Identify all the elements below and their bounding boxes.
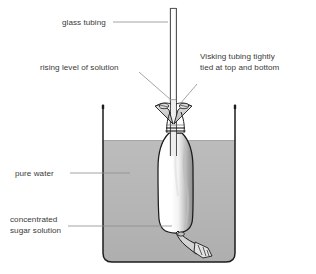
label-visking-tubing-line1: Visking tubing tightly: [200, 52, 276, 61]
label-sugar-solution-line2: sugar solution: [10, 226, 61, 235]
label-visking-tubing: Visking tubing tightly tied at top and b…: [200, 52, 280, 72]
label-pure-water: pure water: [15, 169, 54, 178]
label-glass-tubing: glass tubing: [62, 18, 106, 27]
label-sugar-solution: concentrated sugar solution: [10, 215, 61, 235]
label-sugar-solution-line1: concentrated: [10, 215, 57, 224]
osmosis-diagram-svg: glass tubing rising level of solution Vi…: [0, 0, 316, 274]
leader-rising-level: [139, 72, 171, 100]
label-rising-level: rising level of solution: [40, 63, 119, 72]
label-visking-tubing-line2: tied at top and bottom: [200, 63, 280, 72]
bottom-tie-knot: [178, 232, 185, 236]
osmosis-diagram-figure: glass tubing rising level of solution Vi…: [0, 0, 316, 274]
leader-visking-tubing: [180, 84, 197, 104]
